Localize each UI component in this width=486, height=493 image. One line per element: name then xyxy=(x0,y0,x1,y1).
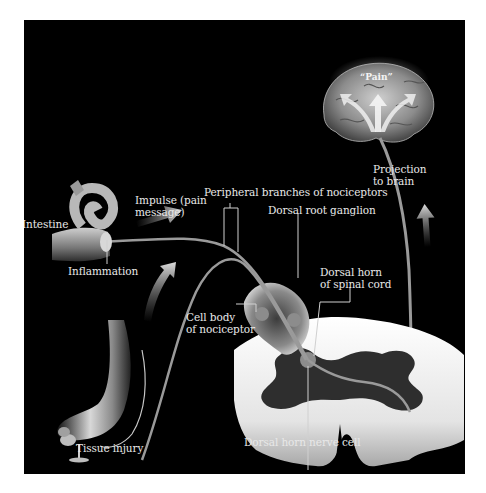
dorsal-horn-nerve-cell-label: Dorsal horn nerve cell xyxy=(244,437,360,448)
cell-body-label-line1: Cell body xyxy=(186,312,235,323)
tissue-injury-label: Tissue injury xyxy=(76,443,143,454)
diagram-panel: “Pain” Projection to brain Impulse (pain… xyxy=(24,20,465,474)
pain-pathway-illustration xyxy=(24,20,465,474)
dorsal-horn-label-line1: Dorsal horn xyxy=(320,267,382,278)
dorsal-horn-label-line2: of spinal cord xyxy=(320,279,391,290)
projection-label-line1: Projection xyxy=(373,164,426,175)
pain-label: “Pain” xyxy=(360,72,393,82)
impulse-label-line2: message) xyxy=(135,207,184,218)
peripheral-branches-label: Peripheral branches of nociceptors xyxy=(204,187,387,198)
inflammation-site xyxy=(100,232,112,252)
brain xyxy=(323,56,433,142)
cell-body-label-line2: of nociceptor xyxy=(186,324,255,335)
inflammation-label: Inflammation xyxy=(68,266,138,277)
leg-upward-arrow xyxy=(144,262,176,322)
impulse-label-line1: Impulse (pain xyxy=(135,195,207,206)
intestine-label: Intestine xyxy=(24,219,68,230)
projection-upward-arrow xyxy=(416,203,437,247)
leg-and-foot xyxy=(57,320,145,447)
dorsal-root-ganglion-label: Dorsal root ganglion xyxy=(268,205,376,216)
cell-body-of-nociceptor xyxy=(255,307,269,321)
